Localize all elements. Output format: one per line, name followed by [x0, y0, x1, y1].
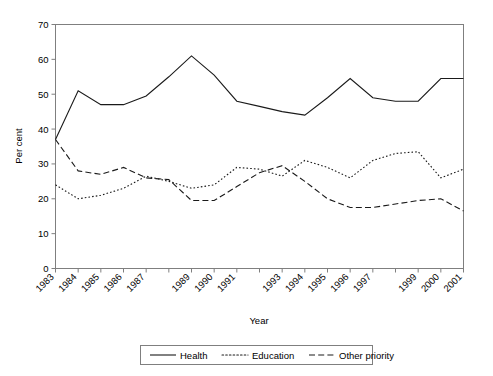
y-axis-title: Per cent [13, 128, 24, 164]
y-tick-label: 50 [38, 89, 49, 100]
chart-legend: HealthEducationOther priority [141, 346, 395, 365]
legend-label-health: Health [180, 350, 207, 361]
y-tick-label: 60 [38, 54, 49, 65]
legend-label-other-priority: Other priority [339, 350, 394, 361]
y-tick-label: 20 [38, 193, 49, 204]
y-tick-label: 30 [38, 158, 49, 169]
chart-background [0, 0, 493, 376]
y-tick-label: 40 [38, 124, 49, 135]
y-tick-label: 10 [38, 228, 49, 239]
legend-items: HealthEducationOther priority [150, 350, 394, 361]
y-tick-label: 70 [38, 19, 49, 30]
line-chart: 010203040506070 198319841985198619871989… [0, 0, 493, 376]
chart-figure: 010203040506070 198319841985198619871989… [0, 0, 493, 376]
legend-label-education: Education [252, 350, 294, 361]
x-axis-title: Year [249, 315, 268, 326]
